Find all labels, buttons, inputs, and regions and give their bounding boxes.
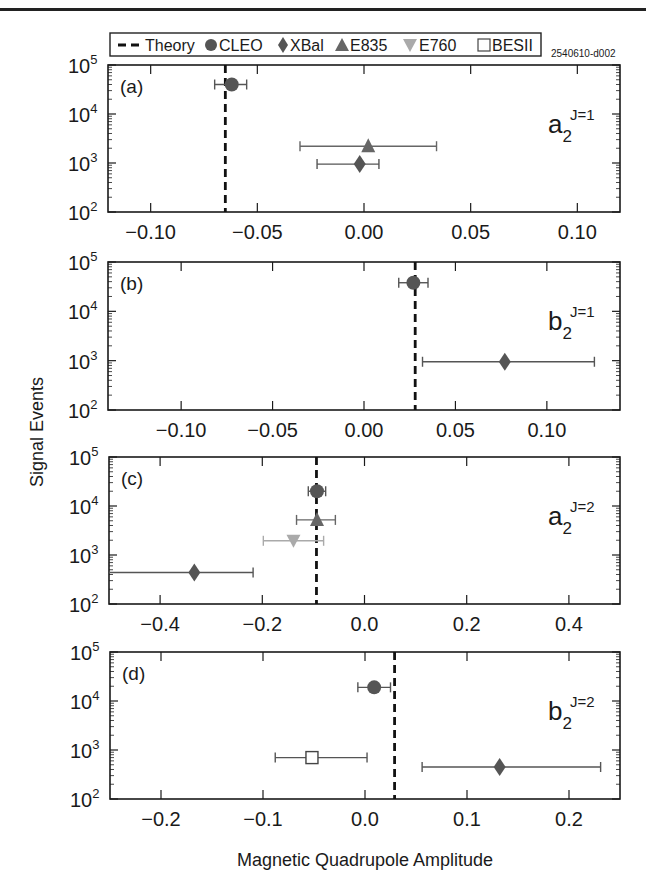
panel-label: (c) bbox=[121, 468, 143, 489]
plot-frame bbox=[108, 65, 620, 212]
x-axis-title: Magnetic Quadrupole Amplitude bbox=[237, 850, 493, 870]
amplitude-label: a2J=1 bbox=[548, 106, 595, 146]
square-marker-icon bbox=[306, 752, 318, 764]
data-point-cleo bbox=[215, 77, 247, 91]
x-tick-label: 0.2 bbox=[453, 613, 481, 635]
y-tick-label: 103 bbox=[70, 737, 99, 762]
data-point-xbal bbox=[422, 758, 601, 776]
data-point-cleo bbox=[399, 276, 428, 290]
y-tick-label: 103 bbox=[69, 542, 98, 567]
cleo-legend-icon bbox=[205, 39, 217, 51]
data-point-cleo bbox=[358, 680, 391, 694]
panel-label: (a) bbox=[120, 76, 143, 97]
plot-frame bbox=[110, 652, 620, 799]
y-tick-label: 105 bbox=[70, 639, 99, 664]
data-point-xbal bbox=[317, 155, 379, 173]
legend: Theory CLEO XBal E835 E760 BESII bbox=[110, 33, 541, 56]
y-tick-label: 105 bbox=[68, 52, 97, 77]
data-point-xbal bbox=[109, 563, 253, 581]
x-tick-label: 0.05 bbox=[436, 419, 475, 441]
x-tick-label: 0.1 bbox=[453, 808, 481, 830]
data-point-besii bbox=[275, 752, 367, 764]
y-tick-label: 103 bbox=[68, 150, 97, 175]
diamond-marker-icon bbox=[354, 155, 366, 173]
x-tick-label: 0.00 bbox=[345, 221, 384, 243]
y-tick-label: 102 bbox=[70, 786, 99, 811]
panel-a: 105104103102−0.10−0.050.000.050.10(a)a2J… bbox=[68, 52, 620, 243]
circle-marker-icon bbox=[225, 77, 239, 91]
figure-id: 2540610-d002 bbox=[551, 48, 616, 59]
data-point-e760 bbox=[263, 535, 323, 548]
x-tick-label: −0.05 bbox=[247, 419, 298, 441]
amplitude-label: b2J=2 bbox=[548, 693, 595, 733]
legend-label-besii: BESII bbox=[492, 37, 533, 54]
x-tick-label: 0.10 bbox=[527, 419, 566, 441]
top-rule bbox=[0, 8, 646, 11]
plot-frame bbox=[109, 457, 620, 604]
x-tick-label: −0.2 bbox=[243, 613, 282, 635]
triangle-up-marker-icon bbox=[310, 512, 324, 526]
panel-b: 105104103102−0.10−0.050.000.050.10(b)b2J… bbox=[68, 249, 620, 441]
circle-marker-icon bbox=[367, 680, 381, 694]
circle-marker-icon bbox=[310, 484, 324, 498]
y-tick-label: 105 bbox=[69, 444, 98, 469]
data-point-e835 bbox=[297, 512, 336, 526]
legend-label-theory: Theory bbox=[145, 37, 195, 54]
x-tick-label: 0.4 bbox=[555, 613, 583, 635]
x-tick-label: −0.1 bbox=[243, 808, 282, 830]
y-tick-label: 102 bbox=[68, 199, 97, 224]
y-tick-label: 102 bbox=[69, 591, 98, 616]
x-tick-label: 0.0 bbox=[351, 613, 379, 635]
panel-c: 105104103102−0.4−0.20.00.20.4(c)a2J=2 bbox=[69, 444, 620, 635]
x-tick-label: −0.05 bbox=[232, 221, 283, 243]
y-tick-label: 104 bbox=[68, 298, 97, 323]
besii-legend-icon bbox=[478, 39, 490, 51]
triangle-up-marker-icon bbox=[361, 138, 375, 152]
diamond-marker-icon bbox=[188, 563, 200, 581]
x-tick-label: −0.4 bbox=[140, 613, 179, 635]
legend-label-cleo: CLEO bbox=[219, 37, 263, 54]
x-tick-label: 0.05 bbox=[451, 221, 490, 243]
y-tick-label: 104 bbox=[68, 101, 97, 126]
x-tick-label: −0.10 bbox=[156, 419, 207, 441]
legend-label-e760: E760 bbox=[419, 37, 456, 54]
y-tick-label: 105 bbox=[68, 249, 97, 274]
amplitude-label: a2J=2 bbox=[548, 498, 595, 538]
x-tick-label: 0.0 bbox=[351, 808, 379, 830]
y-tick-label: 104 bbox=[69, 493, 98, 518]
x-tick-label: 0.10 bbox=[558, 221, 597, 243]
plot-frame bbox=[108, 262, 620, 410]
y-tick-label: 104 bbox=[70, 688, 99, 713]
figure: Theory CLEO XBal E835 E760 BESII 2540610… bbox=[0, 0, 646, 884]
data-point-cleo bbox=[308, 484, 325, 498]
legend-label-xbal: XBal bbox=[290, 37, 324, 54]
data-point-e835 bbox=[300, 138, 437, 152]
diamond-marker-icon bbox=[499, 353, 511, 371]
circle-marker-icon bbox=[406, 276, 420, 290]
y-tick-label: 102 bbox=[68, 397, 97, 422]
x-tick-label: 0.2 bbox=[555, 808, 583, 830]
x-tick-label: −0.2 bbox=[141, 808, 180, 830]
y-axis-title: Signal Events bbox=[27, 377, 47, 487]
panels: 105104103102−0.10−0.050.000.050.10(a)a2J… bbox=[68, 52, 620, 830]
panel-d: 105104103102−0.2−0.10.00.10.2(d)b2J=2 bbox=[70, 639, 620, 830]
legend-label-e835: E835 bbox=[350, 37, 387, 54]
x-tick-label: 0.00 bbox=[345, 419, 384, 441]
panel-label: (d) bbox=[122, 663, 145, 684]
panel-label: (b) bbox=[120, 273, 143, 294]
data-point-xbal bbox=[423, 353, 595, 371]
diamond-marker-icon bbox=[494, 758, 506, 776]
x-tick-label: −0.10 bbox=[125, 221, 176, 243]
amplitude-label: b2J=1 bbox=[548, 303, 595, 343]
y-tick-label: 103 bbox=[68, 348, 97, 373]
